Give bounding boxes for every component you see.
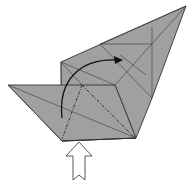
origami-figure [0,0,190,188]
origami-diagram [0,0,190,188]
push-arrow-icon [66,142,92,180]
